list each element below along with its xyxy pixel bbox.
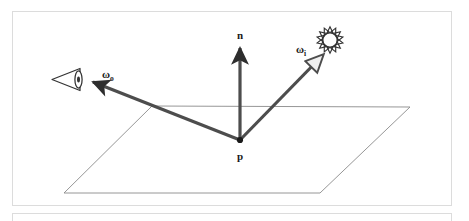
omega-i-label: ωi	[296, 43, 306, 58]
omega-o-label: ωo	[102, 68, 114, 83]
brdf-diagram: n ωo ωi p	[0, 0, 469, 221]
point-p-label: p	[237, 150, 243, 162]
eye-icon	[52, 69, 82, 91]
point-dot-icon	[237, 137, 243, 143]
omega-o-vector	[93, 82, 240, 140]
sun-icon	[317, 27, 343, 53]
diagram-page: n ωo ωi p	[0, 0, 469, 221]
omega-i-vector	[240, 56, 322, 140]
normal-label: n	[237, 29, 243, 41]
